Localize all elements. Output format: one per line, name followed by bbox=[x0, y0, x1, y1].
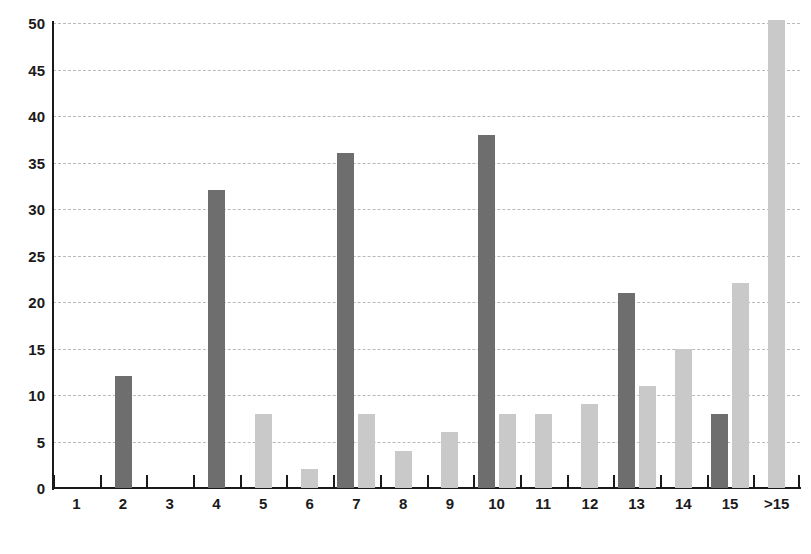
x-tick-label: 7 bbox=[333, 496, 380, 511]
x-tick-label: 15 bbox=[707, 496, 754, 511]
x-tick bbox=[427, 475, 429, 488]
x-tick-label: 10 bbox=[473, 496, 520, 511]
x-tick bbox=[707, 475, 709, 488]
x-tick bbox=[333, 475, 335, 488]
y-tick-label: 45 bbox=[5, 62, 45, 77]
x-tick-label: 1 bbox=[53, 496, 100, 511]
y-tick-label: 0 bbox=[5, 481, 45, 496]
bar-chart: 05101520253035404550 1234567891011121314… bbox=[0, 0, 811, 554]
y-axis-tick-labels: 05101520253035404550 bbox=[0, 23, 45, 488]
x-tick-label: 5 bbox=[240, 496, 287, 511]
x-tick bbox=[473, 475, 475, 488]
x-tick-label: 2 bbox=[100, 496, 147, 511]
x-axis-ticks bbox=[53, 23, 800, 488]
y-tick-label: 30 bbox=[5, 202, 45, 217]
x-tick bbox=[660, 475, 662, 488]
x-tick bbox=[53, 475, 55, 488]
x-tick-label: 12 bbox=[567, 496, 614, 511]
x-tick-label: 3 bbox=[146, 496, 193, 511]
y-tick-label: 20 bbox=[5, 295, 45, 310]
x-tick bbox=[100, 475, 102, 488]
x-tick bbox=[286, 475, 288, 488]
x-tick bbox=[146, 475, 148, 488]
y-tick-label: 35 bbox=[5, 155, 45, 170]
y-tick-label: 50 bbox=[5, 16, 45, 31]
y-tick-label: 15 bbox=[5, 341, 45, 356]
x-tick bbox=[380, 475, 382, 488]
x-tick bbox=[567, 475, 569, 488]
x-tick bbox=[240, 475, 242, 488]
x-tick-label: 6 bbox=[286, 496, 333, 511]
x-tick bbox=[753, 475, 755, 488]
y-tick-label: 25 bbox=[5, 248, 45, 263]
x-tick bbox=[520, 475, 522, 488]
x-tick bbox=[613, 475, 615, 488]
y-tick-label: 40 bbox=[5, 109, 45, 124]
x-tick bbox=[193, 475, 195, 488]
x-tick-label: 9 bbox=[427, 496, 474, 511]
x-tick-label: 11 bbox=[520, 496, 567, 511]
x-tick-label: 13 bbox=[613, 496, 660, 511]
y-tick-label: 5 bbox=[5, 434, 45, 449]
x-tick-label: 4 bbox=[193, 496, 240, 511]
x-tick-label: 8 bbox=[380, 496, 427, 511]
x-tick-label: 14 bbox=[660, 496, 707, 511]
x-tick-label: >15 bbox=[753, 496, 800, 511]
y-tick-label: 10 bbox=[5, 388, 45, 403]
x-tick bbox=[798, 475, 800, 488]
